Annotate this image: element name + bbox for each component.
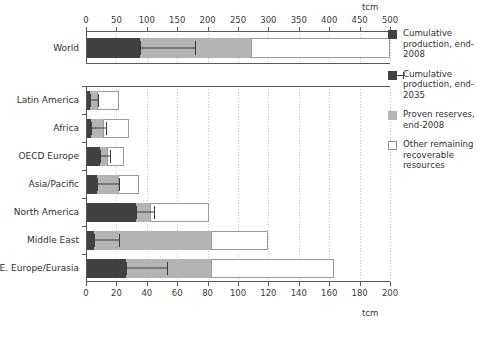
x-axis-tick-label: 100 — [139, 15, 155, 25]
legend-label: Cumulative production, end-2008 — [403, 28, 477, 60]
errorbar-cap-end — [98, 94, 99, 107]
bar-row — [86, 119, 390, 138]
errorbar-cumulative-production-2035 — [136, 212, 154, 213]
errorbar-cap-start — [97, 178, 98, 191]
bar-row — [86, 203, 390, 222]
legend-item-proven-reserves-2008[interactable]: Proven reserves, end-2008 — [388, 109, 477, 130]
bar-segment-other-resources — [211, 259, 334, 278]
bar-row — [86, 231, 390, 250]
errorbar-cumulative-production-2035 — [91, 128, 105, 129]
bar-row — [86, 91, 390, 110]
x-axis-tick — [86, 282, 87, 286]
x-axis-tick — [329, 27, 330, 31]
x-axis-tick-label: 350 — [291, 15, 307, 25]
bar-segment-cumulative-production-2008 — [86, 231, 94, 250]
y-axis-line — [86, 86, 87, 282]
x-axis-tick — [116, 27, 117, 31]
bar-row — [86, 38, 390, 58]
errorbar-cap-start — [126, 262, 127, 275]
category-label: North America — [14, 207, 79, 217]
errorbar-cap-end — [110, 150, 111, 163]
x-axis-tick-label: 160 — [321, 288, 337, 298]
category-label: World — [53, 43, 79, 53]
world-chart: World050100150200250300350400450500 — [86, 31, 390, 64]
errorbar-cap-end — [119, 234, 120, 247]
bar-segment-other-resources — [118, 175, 139, 194]
x-axis-tick-label: 150 — [169, 15, 185, 25]
x-axis-tick-label: 180 — [351, 288, 367, 298]
legend-swatch-cumulative-production-2008 — [388, 30, 397, 39]
category-label: Asia/Pacific — [29, 179, 80, 189]
x-axis-tick-label: 200 — [199, 15, 215, 25]
bar-segment-cumulative-production-2008 — [86, 203, 136, 222]
legend-item-cumulative-production-2008[interactable]: Cumulative production, end-2008 — [388, 28, 477, 60]
bar-segment-other-resources — [150, 203, 209, 222]
x-axis-tick — [208, 27, 209, 31]
x-axis-tick — [299, 27, 300, 31]
x-axis-tick — [360, 282, 361, 286]
x-axis-tick — [390, 282, 391, 286]
x-axis-tick — [329, 282, 330, 286]
x-axis-line-opposite — [86, 86, 390, 87]
x-axis-tick — [360, 27, 361, 31]
errorbar-cap-start — [136, 206, 137, 219]
errorbar-cap-start — [140, 41, 141, 55]
errorbar-cap-end — [195, 41, 196, 55]
x-axis-tick-label: 40 — [141, 288, 152, 298]
regions-plot-area: Latin AmericaAfricaOECD EuropeAsia/Pacif… — [86, 86, 390, 282]
x-axis-tick-label: 20 — [111, 288, 122, 298]
x-axis-line — [86, 31, 390, 32]
bar-segment-cumulative-production-2008 — [86, 175, 97, 194]
x-axis-line-opposite — [86, 63, 390, 64]
bar-segment-other-resources — [97, 91, 120, 110]
bar-row — [86, 175, 390, 194]
x-axis-tick-label: 60 — [172, 288, 183, 298]
regions-chart: Latin AmericaAfricaOECD EuropeAsia/Pacif… — [86, 86, 390, 282]
errorbar-cumulative-production-2035 — [126, 268, 167, 269]
legend-swatch-other-remaining-recoverable-resources — [388, 141, 397, 150]
category-label: Africa — [53, 123, 79, 133]
bar-segment-other-resources — [251, 38, 390, 58]
category-label: E. Europe/Eurasia — [0, 263, 79, 273]
x-axis-tick-label: 200 — [382, 288, 398, 298]
x-axis-tick — [147, 282, 148, 286]
errorbar-cap-end — [154, 206, 155, 219]
x-axis-tick — [268, 282, 269, 286]
errorbar-cap-start — [100, 150, 101, 163]
y-axis-line — [86, 31, 87, 64]
legend-item-cumulative-production-2035[interactable]: Cumulative production, end-2035 — [388, 69, 477, 101]
x-axis-tick-label: 100 — [230, 288, 246, 298]
errorbar-cumulative-production-2035 — [94, 240, 120, 241]
errorbar-cap-start — [90, 94, 91, 107]
errorbar-cap-start — [91, 122, 92, 135]
bar-segment-cumulative-production-2008 — [86, 38, 140, 58]
x-axis-tick-label: 50 — [111, 15, 122, 25]
bottom-axis-unit-label: tcm — [362, 308, 378, 318]
x-axis-tick — [116, 282, 117, 286]
bar-segment-cumulative-production-2008 — [86, 147, 100, 166]
legend-item-other-remaining-recoverable-resources[interactable]: Other remaining recoverable resources — [388, 139, 477, 171]
x-axis-tick — [177, 27, 178, 31]
x-axis-tick-label: 0 — [83, 15, 88, 25]
category-label: OECD Europe — [19, 151, 80, 161]
x-axis-tick — [268, 27, 269, 31]
top-axis-unit-label: tcm — [362, 2, 378, 12]
category-label: Latin America — [17, 95, 79, 105]
errorbar-cap-start — [94, 234, 95, 247]
errorbar-cap-end — [167, 262, 168, 275]
legend-swatch-proven-reserves-2008 — [388, 111, 397, 120]
x-axis-tick — [86, 27, 87, 31]
x-axis-tick — [238, 282, 239, 286]
x-axis-tick — [299, 282, 300, 286]
legend-label: Proven reserves, end-2008 — [403, 109, 477, 130]
bar-segment-other-resources — [211, 231, 269, 250]
category-label: Middle East — [27, 235, 79, 245]
x-axis-tick — [238, 27, 239, 31]
errorbar-cap-end — [106, 122, 107, 135]
x-axis-tick-label: 0 — [83, 288, 88, 298]
x-axis-tick — [208, 282, 209, 286]
errorbar-cumulative-production-2035 — [100, 156, 111, 157]
world-plot-area: World050100150200250300350400450500 — [86, 31, 390, 64]
bar-segment-cumulative-production-2008 — [86, 259, 126, 278]
errorbar-cumulative-production-2035 — [97, 184, 120, 185]
